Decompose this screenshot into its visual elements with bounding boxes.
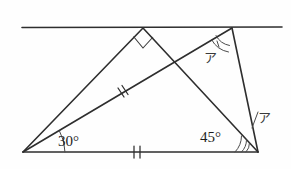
angle-label-45: 45°: [200, 129, 221, 145]
mark-label-lower-a: ア: [258, 110, 271, 125]
angle-arc-a-bottom-right-inner: [246, 143, 250, 152]
geometry-figure: 30° 45° ア ア: [0, 0, 291, 169]
right-side-line: [232, 28, 258, 152]
right-angle-marker-icon: [134, 37, 154, 49]
geometry-diagram-canvas: 30° 45° ア ア: [0, 0, 291, 169]
mark-label-upper-a: ア: [204, 50, 217, 65]
angle-arc-a-bottom-right-outer: [242, 140, 247, 152]
leader-line-upper-a: [217, 41, 219, 47]
top-parallel-line: [22, 27, 282, 28]
angle-label-30: 30°: [58, 133, 79, 149]
angle-arc-45-bottom-right: [235, 136, 242, 152]
